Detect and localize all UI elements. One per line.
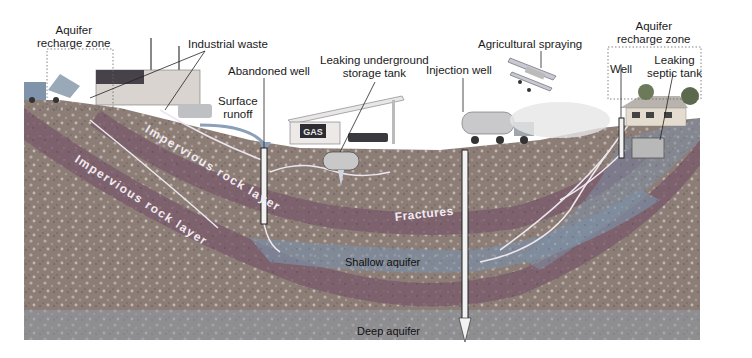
underground-storage-tank (323, 152, 359, 170)
label-surface-runoff: Surface runoff (218, 95, 258, 121)
septic-tank (632, 138, 664, 158)
gas-station: GAS (288, 96, 404, 144)
crop-duster-biplane (508, 58, 556, 92)
label-well: Well (610, 63, 632, 76)
groundwater-contamination-diagram: GAS Aquifer recharge zone Indust (0, 0, 752, 358)
gas-sign: GAS (303, 127, 323, 137)
label-injection-well: Injection well (426, 64, 492, 77)
dump-truck (24, 74, 80, 103)
label-agricultural-spraying: Agricultural spraying (478, 38, 582, 51)
abandoned-well-pipe (261, 148, 267, 224)
well-pipe (619, 118, 624, 158)
label-aquifer-recharge-zone-right: Aquifer recharge zone (617, 20, 691, 46)
label-leaking-septic-tank: Leaking septic tank (647, 54, 702, 80)
waste-tanker (178, 104, 212, 118)
pesticide-spray-cloud (510, 102, 610, 138)
label-industrial-waste: Industrial waste (188, 38, 268, 51)
label-shallow-aquifer: Shallow aquifer (345, 256, 420, 268)
injection-well-pipe (462, 150, 468, 320)
label-deep-aquifer: Deep aquifer (357, 325, 420, 337)
label-abandoned-well: Abandoned well (228, 65, 310, 78)
label-aquifer-recharge-zone-left: Aquifer recharge zone (37, 24, 111, 50)
industrial-building (96, 38, 200, 105)
label-leaking-underground-storage-tank: Leaking underground storage tank (320, 54, 429, 80)
